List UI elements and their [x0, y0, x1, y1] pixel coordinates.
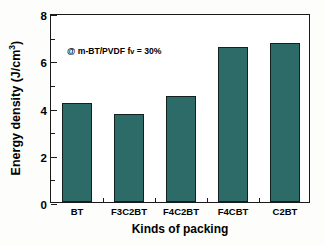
chart-screenshot: Energy density (J/cm3) @ m-BT/PVDF fv = …: [0, 0, 325, 245]
y-axis-title: Energy density (J/cm3): [4, 14, 26, 203]
x-axis-category-label: BT: [71, 206, 84, 217]
bar-c2bt: [270, 43, 300, 202]
y-axis-title-superscript: 3: [7, 45, 17, 50]
x-axis-category-label: F3C2BT: [111, 206, 147, 217]
x-axis-category-label: C2BT: [273, 206, 298, 217]
y-axis-tick-major: 0: [51, 204, 57, 205]
x-axis-category-label: F4C2BT: [163, 206, 199, 217]
y-axis-title-text: Energy density (J/cm: [9, 50, 23, 176]
bar-f4cbt: [218, 47, 248, 202]
bar-f4c2bt: [166, 96, 196, 202]
y-axis-tick-label: 6: [41, 57, 47, 69]
y-axis-tick-label: 4: [41, 105, 47, 117]
y-axis-tick-label: 0: [41, 199, 47, 211]
y-axis-title-suffix: ): [9, 41, 23, 45]
y-axis-tick-label: 2: [41, 152, 47, 164]
bars-layer: [51, 15, 309, 202]
x-axis-title: Kinds of packing: [50, 222, 310, 236]
x-axis-category-label: F4CBT: [218, 206, 249, 217]
bar-f3c2bt: [114, 114, 144, 202]
y-axis-tick-label: 8: [41, 10, 47, 22]
bar-bt: [62, 103, 92, 202]
plot-area: @ m-BT/PVDF fv = 30% 02468BTF3C2BTF4C2BT…: [50, 14, 310, 203]
